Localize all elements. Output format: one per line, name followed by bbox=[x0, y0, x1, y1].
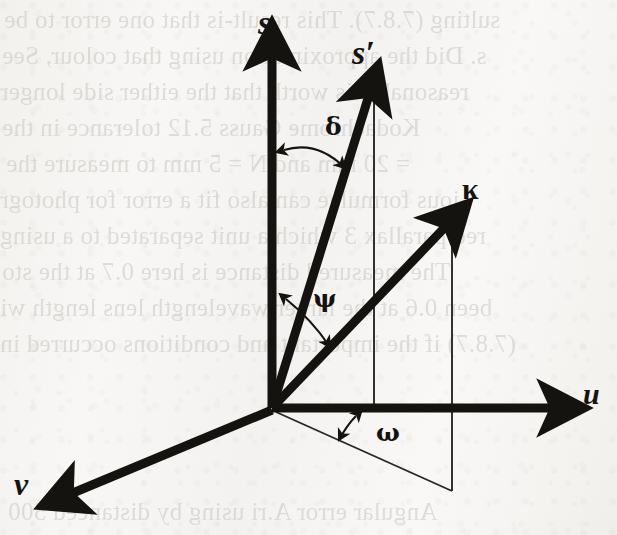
delta-angle-label: δ bbox=[325, 114, 342, 139]
scanned-page: sulting (7.8.7). This result-is that one… bbox=[0, 0, 617, 535]
psi-angle-label: ψ bbox=[313, 286, 337, 311]
kappa-ground-projection bbox=[276, 412, 452, 491]
delta-angle-arc bbox=[284, 147, 345, 168]
vector-diagram bbox=[0, 0, 617, 535]
v-axis-label: v bbox=[14, 468, 28, 500]
kappa-vector-label: κ bbox=[462, 174, 479, 204]
s-axis-label: s bbox=[258, 6, 271, 40]
omega-angle-arc bbox=[339, 416, 356, 440]
omega-angle-label: ω bbox=[376, 420, 400, 445]
s-prime-vector-label: s′ bbox=[352, 36, 375, 70]
u-axis-label: u bbox=[583, 379, 600, 409]
v-axis-line bbox=[68, 410, 272, 495]
